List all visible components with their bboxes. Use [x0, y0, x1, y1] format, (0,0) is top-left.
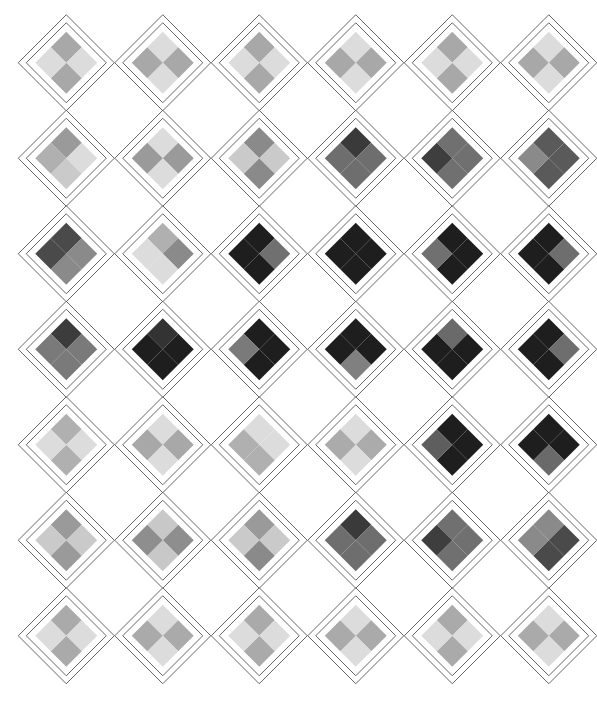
- argyle-pattern-svg: [0, 0, 597, 707]
- argyle-pattern-canvas: [0, 0, 597, 707]
